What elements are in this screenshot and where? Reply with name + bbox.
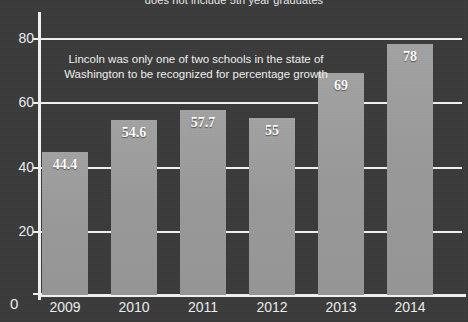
y-axis-labels: 80 60 40 20	[0, 0, 34, 322]
chart-annotation: Lincoln was only one of two schools in t…	[46, 52, 346, 82]
tick-60	[33, 102, 43, 104]
y-tick-label-80: 80	[2, 31, 34, 45]
y-tick-label-60: 60	[2, 95, 34, 109]
annotation-line-2: Washington to be recognized for percenta…	[46, 67, 346, 82]
bar-2013[interactable]: 69	[318, 73, 364, 295]
bar-2012[interactable]: 55	[249, 118, 295, 295]
x-tick-label-2012: 2012	[237, 299, 307, 315]
bar-value-2014: 78	[387, 49, 433, 64]
x-tick-label-2011: 2011	[168, 299, 238, 315]
bar-value-2012: 55	[249, 123, 295, 138]
bar-value-2009: 44.4	[42, 157, 88, 172]
y-axis-line	[38, 12, 41, 300]
chart-canvas: does not include 5th year graduates 80 6…	[0, 0, 468, 322]
x-axis-labels: 2009 2010 2011 2012 2013 2014	[42, 299, 462, 321]
x-tick-label-2009: 2009	[30, 299, 100, 315]
gridline-80	[42, 38, 462, 40]
x-tick-label-2014: 2014	[375, 299, 445, 315]
annotation-line-1: Lincoln was only one of two schools in t…	[46, 52, 346, 67]
bar-2010[interactable]: 54.6	[111, 120, 157, 295]
y-tick-label-20: 20	[2, 224, 34, 238]
bar-2009[interactable]: 44.4	[42, 152, 88, 295]
bar-value-2010: 54.6	[111, 125, 157, 140]
tick-80	[33, 38, 43, 40]
x-tick-label-2013: 2013	[306, 299, 376, 315]
bar-value-2011: 57.7	[180, 115, 226, 130]
y-tick-label-0: 0	[10, 296, 18, 311]
x-tick-label-2010: 2010	[99, 299, 169, 315]
bar-2014[interactable]: 78	[387, 44, 433, 295]
bar-2011[interactable]: 57.7	[180, 110, 226, 295]
chart-top-caption: does not include 5th year graduates	[0, 0, 468, 6]
y-tick-label-40: 40	[2, 160, 34, 174]
